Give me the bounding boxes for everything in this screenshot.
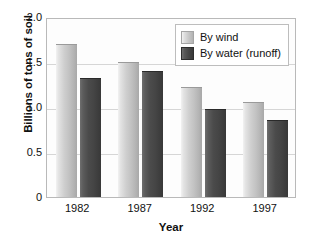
bar bbox=[142, 71, 163, 197]
legend-swatch-wind bbox=[181, 31, 194, 44]
bar bbox=[80, 78, 101, 197]
x-axis-tick-label: 1992 bbox=[172, 202, 232, 214]
legend-label: By wind bbox=[200, 31, 239, 43]
legend-item: By water (runoff) bbox=[181, 45, 281, 61]
chart-title-cropped bbox=[44, 0, 274, 3]
x-axis-tick-label: 1982 bbox=[47, 202, 107, 214]
y-axis-tick-label: 0.5 bbox=[16, 147, 42, 158]
legend-item: By wind bbox=[181, 29, 281, 45]
x-axis-tick-label: 1987 bbox=[110, 202, 170, 214]
legend-label: By water (runoff) bbox=[200, 47, 281, 59]
bar bbox=[118, 62, 139, 197]
bar bbox=[56, 44, 77, 197]
plot-area: By windBy water (runoff) bbox=[46, 18, 296, 198]
y-axis-tick-label: 0 bbox=[16, 192, 42, 203]
x-axis-tick-labels: 1982198719921997 bbox=[46, 202, 296, 216]
bar-chart: Billions of tons of soil 00.51.01.52.0 B… bbox=[0, 0, 310, 241]
bar bbox=[243, 102, 264, 197]
y-axis-tick-label: 1.5 bbox=[16, 57, 42, 68]
legend: By windBy water (runoff) bbox=[175, 24, 289, 66]
x-axis-tick-label: 1997 bbox=[235, 202, 295, 214]
x-axis-title: Year bbox=[46, 221, 296, 233]
bar bbox=[267, 120, 288, 197]
bar bbox=[181, 87, 202, 197]
legend-swatch-water bbox=[181, 47, 194, 60]
y-axis-tick-label: 2.0 bbox=[16, 12, 42, 23]
bar bbox=[205, 109, 226, 197]
y-axis-tick-labels: 00.51.01.52.0 bbox=[14, 0, 42, 241]
y-axis-tick-label: 1.0 bbox=[16, 102, 42, 113]
